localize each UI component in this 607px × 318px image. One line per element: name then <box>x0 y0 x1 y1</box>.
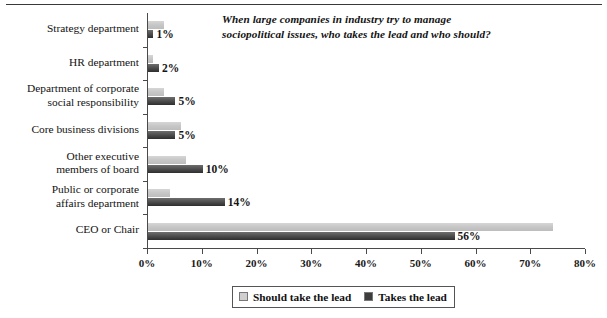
value-axis-tick <box>476 249 477 254</box>
bar-row: Public or corporate affairs department14… <box>147 181 585 215</box>
bar-value-label: 10% <box>206 164 229 174</box>
bar-takes-the-lead <box>148 165 203 173</box>
bar-takes-the-lead <box>148 198 225 206</box>
category-label: HR department <box>0 56 139 70</box>
bar-takes-the-lead <box>148 97 175 105</box>
bar-value-label: 5% <box>178 130 195 140</box>
bar-should-take-the-lead <box>148 156 186 164</box>
bar-row: Core business divisions5% <box>147 114 585 148</box>
value-axis-tick-label: 60% <box>465 257 487 269</box>
bar-row: Other executive members of board10% <box>147 147 585 181</box>
chart-legend: Should take the leadTakes the lead <box>232 286 455 308</box>
bar-row: HR department2% <box>147 47 585 81</box>
legend-item: Should take the lead <box>239 291 351 303</box>
category-label: CEO or Chair <box>0 223 139 237</box>
plot-area: 0%10%20%30%40%50%60%70%80% Strategy depa… <box>147 13 585 248</box>
legend-swatch-icon <box>239 292 248 301</box>
bar-should-take-the-lead <box>148 223 553 231</box>
value-axis-tick-label: 80% <box>574 257 596 269</box>
bar-value-label: 5% <box>178 96 195 106</box>
value-axis-tick-label: 50% <box>410 257 432 269</box>
legend-label: Should take the lead <box>253 291 351 303</box>
legend-swatch-icon <box>364 292 373 301</box>
legend-item: Takes the lead <box>364 291 447 303</box>
value-axis-tick-label: 20% <box>246 257 268 269</box>
bar-row: Strategy department1% <box>147 13 585 47</box>
bar-takes-the-lead <box>148 64 159 72</box>
bar-takes-the-lead <box>148 30 153 38</box>
bar-row: Department of corporate social responsib… <box>147 80 585 114</box>
bar-takes-the-lead <box>148 131 175 139</box>
bar-should-take-the-lead <box>148 122 181 130</box>
bar-value-label: 14% <box>228 197 251 207</box>
value-axis-tick <box>585 249 586 254</box>
value-axis-tick <box>421 249 422 254</box>
value-axis-tick-label: 10% <box>191 257 213 269</box>
bar-value-label: 1% <box>156 29 173 39</box>
bar-value-label: 56% <box>458 231 481 241</box>
value-axis-tick-label: 30% <box>300 257 322 269</box>
category-label: Other executive members of board <box>0 150 139 177</box>
category-label: Public or corporate affairs department <box>0 183 139 210</box>
value-axis-tick <box>147 249 148 254</box>
bar-should-take-the-lead <box>148 55 153 63</box>
value-axis-tick-label: 40% <box>355 257 377 269</box>
legend-label: Takes the lead <box>378 291 447 303</box>
bar-should-take-the-lead <box>148 88 164 96</box>
bar-value-label: 2% <box>162 63 179 73</box>
bar-takes-the-lead <box>148 232 455 240</box>
bar-chart-figure: When large companies in industry try to … <box>0 0 607 318</box>
value-axis-tick-label: 70% <box>519 257 541 269</box>
bar-should-take-the-lead <box>148 189 170 197</box>
value-axis-tick <box>530 249 531 254</box>
category-label: Core business divisions <box>0 123 139 137</box>
value-axis-tick <box>366 249 367 254</box>
category-label: Department of corporate social responsib… <box>0 82 139 109</box>
category-label: Strategy department <box>0 22 139 36</box>
value-axis-tick-label: 0% <box>139 257 156 269</box>
value-axis-tick <box>311 249 312 254</box>
value-axis-tick <box>202 249 203 254</box>
value-axis-tick <box>257 249 258 254</box>
bar-row: CEO or Chair56% <box>147 214 585 248</box>
